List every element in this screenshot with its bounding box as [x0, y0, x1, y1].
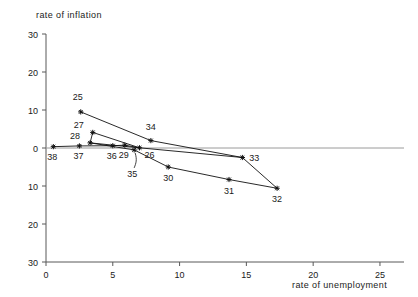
point-label-31: 31: [224, 186, 234, 196]
x-tick-label: 25: [375, 270, 385, 280]
data-point-marker: [226, 177, 231, 182]
y-tick-label: 30: [28, 258, 38, 268]
point-label-28: 28: [70, 131, 80, 141]
point-label-32: 32: [272, 194, 282, 204]
data-point-marker: [77, 143, 82, 148]
data-point-marker: [166, 164, 171, 169]
x-tick-label: 20: [308, 270, 318, 280]
series-segment: [242, 158, 277, 189]
x-tick-label: 10: [175, 270, 185, 280]
axes-group: [42, 34, 404, 266]
point-label-27: 27: [74, 120, 84, 130]
data-point-marker: [90, 130, 95, 135]
x-tick-label: 15: [241, 270, 251, 280]
point-label-29: 29: [119, 150, 129, 160]
series-segment: [151, 141, 243, 158]
data-point-marker: [110, 143, 115, 148]
point-label-25: 25: [73, 92, 83, 102]
phillips-curve-chart: 30201001020300510152025 3837252728362935…: [0, 0, 418, 297]
y-tick-label: 10: [28, 182, 38, 192]
x-tick-label: 0: [43, 270, 48, 280]
data-point-marker: [78, 109, 83, 114]
data-point-marker: [132, 147, 137, 152]
point-label-33: 33: [249, 153, 259, 163]
point-label-26: 26: [144, 150, 154, 160]
data-point-marker: [274, 186, 279, 191]
point-label-30: 30: [163, 173, 173, 183]
series-segment: [168, 167, 229, 180]
data-point-marker: [148, 138, 153, 143]
data-point-marker: [122, 143, 127, 148]
data-point-marker: [137, 145, 142, 150]
x-axis-title: rate of unemployment: [292, 280, 387, 290]
y-tick-label: 30: [28, 30, 38, 40]
data-point-marker: [240, 155, 245, 160]
series-segment: [229, 180, 277, 189]
series-segment: [81, 112, 151, 141]
y-tick-label: 20: [28, 68, 38, 78]
chart-root: 30201001020300510152025 3837252728362935…: [0, 0, 418, 297]
series-segment: [140, 148, 243, 158]
y-tick-label: 20: [28, 220, 38, 230]
leader-line-35: [134, 153, 136, 168]
x-tick-label: 5: [110, 270, 115, 280]
y-tick-label: 0: [33, 144, 38, 154]
y-tick-label: 10: [28, 106, 38, 116]
point-label-34: 34: [146, 122, 156, 132]
point-label-36: 36: [107, 151, 117, 161]
y-axis-title: rate of inflation: [36, 10, 102, 20]
point-label-38: 38: [47, 152, 57, 162]
series-segment: [53, 146, 79, 147]
data-point-marker: [87, 140, 92, 145]
point-label-35: 35: [127, 169, 137, 179]
point-label-37: 37: [73, 151, 83, 161]
data-point-marker: [51, 144, 56, 149]
